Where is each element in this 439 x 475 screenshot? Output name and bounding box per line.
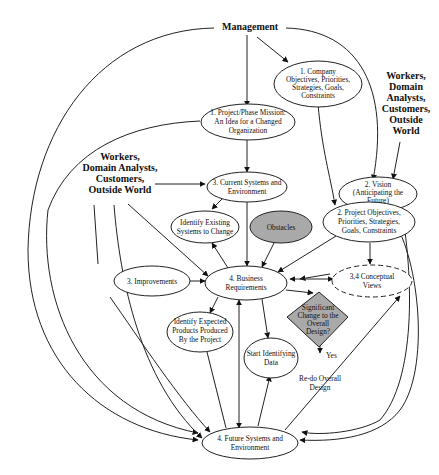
svg-text:Obstacles: Obstacles [267, 223, 296, 232]
svg-text:Domain Analysts,: Domain Analysts, [82, 162, 158, 173]
svg-text:Constraints: Constraints [301, 91, 335, 100]
svg-text:Design: Design [310, 383, 331, 392]
edge-business-to-significant-change [286, 290, 313, 293]
node-business-requirements: 4. Business Requirements [205, 266, 287, 300]
node-project-objectives: 2. Project Objectives, Priorities, Strat… [323, 202, 415, 242]
edge-business-to-start-identifying [262, 299, 268, 338]
svg-text:Outside: Outside [389, 114, 423, 125]
node-start-identifying: Start Identifying Data [244, 338, 298, 378]
svg-text:Analysts,: Analysts, [386, 92, 426, 103]
svg-text:Views: Views [363, 281, 382, 290]
svg-text:Data: Data [264, 358, 279, 367]
workers-right-label: Workers, Domain Analysts, Customers, Out… [382, 70, 431, 136]
svg-text:Workers,: Workers, [386, 70, 426, 81]
edge-future-to-identify-expected [204, 340, 226, 428]
svg-text:Environment: Environment [231, 443, 271, 452]
svg-text:Organization: Organization [229, 126, 268, 135]
node-redo-design: Re-do Overall Design [299, 374, 341, 392]
edge-obstacles-to-business [262, 241, 275, 267]
edge-company-to-project-objectives [318, 104, 335, 205]
node-project-mission: 1. Project/Phase Mission: An Idea for a … [201, 104, 295, 140]
edge-business-to-identify-existing [212, 243, 228, 268]
node-conceptual-views: 3,4 Conceptual Views [332, 265, 412, 297]
svg-text:Identify Existing: Identify Existing [180, 218, 230, 227]
svg-text:Start Identifying: Start Identifying [247, 349, 296, 358]
yes-label: Yes [326, 351, 337, 360]
svg-text:Design?: Design? [306, 327, 330, 336]
svg-text:An Idea for a Changed: An Idea for a Changed [214, 117, 282, 126]
node-current-systems: 3. Current Systems and Environment [207, 172, 287, 202]
svg-text:Domain: Domain [389, 81, 423, 92]
svg-text:Products Produced: Products Produced [172, 326, 228, 335]
svg-text:Environment: Environment [228, 187, 268, 196]
requirements-flow-diagram: Management Workers, Domain Analysts, Cus… [0, 0, 439, 475]
node-identify-existing: Identify Existing Systems to Change [171, 211, 239, 243]
svg-text:4. Business: 4. Business [229, 274, 263, 283]
svg-text:3,4 Conceptual: 3,4 Conceptual [350, 272, 395, 281]
svg-text:Requirements: Requirements [225, 283, 266, 292]
svg-text:1. Project/Phase Mission:: 1. Project/Phase Mission: [210, 108, 285, 117]
management-label: Management [222, 21, 279, 32]
edge-current-to-identify-existing [212, 199, 222, 209]
svg-text:Systems to Change: Systems to Change [177, 227, 234, 236]
workers-left-label: Workers, Domain Analysts, Customers, Out… [82, 151, 158, 195]
svg-text:Customers,: Customers, [382, 103, 431, 114]
edge-into-business-right [300, 274, 330, 279]
edge-workers-to-improvements-line [94, 205, 98, 264]
svg-text:By the Project: By the Project [179, 335, 222, 344]
edge-business-to-identify-expected [210, 297, 218, 313]
svg-text:4. Future Systems and: 4. Future Systems and [217, 434, 283, 443]
node-company-objectives: 1. Company Objectives, Priorities, Strat… [274, 61, 362, 107]
svg-text:3. Current Systems and: 3. Current Systems and [213, 178, 282, 187]
node-obstacles: Obstacles [250, 211, 312, 243]
svg-text:2. Project Objectives,: 2. Project Objectives, [337, 208, 401, 217]
svg-text:Re-do Overall: Re-do Overall [299, 374, 341, 383]
svg-text:Outside World: Outside World [89, 184, 152, 195]
node-significant-change: Significant Change to the Overall Design… [287, 292, 348, 347]
svg-text:Workers,: Workers, [100, 151, 140, 162]
edge-management-to-company [257, 37, 288, 62]
svg-text:Customers,: Customers, [96, 173, 145, 184]
node-identify-expected: Identify Expected Products Produced By t… [167, 312, 233, 352]
svg-text:3. Improvements: 3. Improvements [127, 277, 177, 286]
edge-future-to-start-identifying [258, 376, 270, 426]
node-future-systems: 4. Future Systems and Environment [202, 427, 298, 459]
svg-text:Goals, Constraints: Goals, Constraints [342, 226, 397, 235]
node-improvements: 3. Improvements [114, 266, 190, 296]
svg-text:Priorities, Strategies,: Priorities, Strategies, [338, 217, 400, 226]
svg-text:Identify Expected: Identify Expected [174, 317, 227, 326]
svg-text:World: World [392, 125, 420, 136]
edge-workers-to-vision [393, 142, 400, 179]
